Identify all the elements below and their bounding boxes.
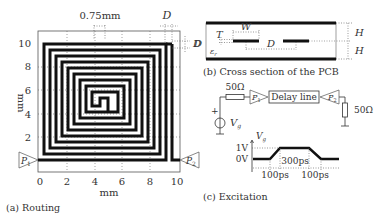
right-dimension — [172, 36, 190, 52]
source-resistor — [226, 95, 244, 100]
waveform-axes — [251, 140, 254, 172]
x-axis-label: mm — [100, 187, 119, 198]
caption-b: (b) Cross section of the PCB — [203, 66, 339, 77]
excitation-panel: 50Ω + Vg P1 Delay line P2 50Ω Vg 1V 0V — [203, 82, 373, 202]
d-mid-label: D — [266, 38, 275, 49]
low-level-label: 0V — [236, 154, 249, 164]
fall-time-label: 100ps — [301, 170, 329, 180]
source-resistor-label: 50Ω — [226, 82, 245, 92]
load-resistor — [343, 103, 348, 117]
width-label: 0.75mm — [79, 10, 121, 21]
x-tick: 6 — [119, 176, 125, 187]
load-resistor-label: 50Ω — [354, 105, 373, 115]
spacing-label: D — [162, 9, 172, 22]
bottom-ground-plane — [206, 58, 336, 61]
h-top-label: H — [354, 27, 364, 38]
x-tick: 8 — [147, 176, 153, 187]
x-tick: 4 — [92, 176, 98, 187]
x-tick: 0 — [37, 176, 43, 187]
cross-section-panel: W T D D εr H H (b) Cross section of the … — [193, 21, 364, 77]
flat-time-label: 300ps — [281, 156, 309, 166]
figure: 0.75mm D D 10 8 6 4 2 mm 0 2 4 6 8 10 mm — [0, 0, 379, 220]
width-dimension — [94, 25, 105, 40]
x-tick: 2 — [64, 176, 70, 187]
x-tick: 10 — [171, 176, 184, 187]
waveform-y-label: Vg — [256, 131, 267, 143]
routing-panel: 0.75mm D D 10 8 6 4 2 mm 0 2 4 6 8 10 mm — [6, 9, 201, 213]
h-bottom-label: H — [354, 45, 364, 56]
caption-a: (a) Routing — [6, 202, 60, 213]
spiral-lead — [172, 44, 180, 160]
caption-c: (c) Excitation — [203, 191, 268, 202]
y-tick: 2 — [25, 132, 31, 143]
spiral-trace — [38, 44, 166, 160]
top-ground-plane — [206, 22, 336, 25]
source-label: Vg — [230, 117, 241, 130]
high-level-label: 1V — [236, 143, 249, 153]
delay-line-label: Delay line — [271, 92, 317, 102]
d-left-label: D — [193, 38, 202, 49]
y-axis-label: mm — [16, 94, 27, 113]
plus-sign: + — [211, 106, 219, 116]
y-tick: 10 — [18, 38, 31, 49]
w-label: W — [241, 21, 252, 32]
rise-time-label: 100ps — [261, 170, 289, 180]
y-tick: 8 — [25, 61, 31, 72]
